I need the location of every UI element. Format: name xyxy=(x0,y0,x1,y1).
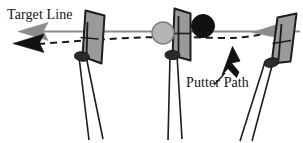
putter-left-face-line xyxy=(87,22,88,57)
putting-stroke-diagram: Target Line Putter Path xyxy=(0,0,303,143)
diagram-canvas: Target Line Putter Path xyxy=(0,0,303,143)
putter-center-hosel xyxy=(165,50,180,60)
putter-path-label: Putter Path xyxy=(186,75,249,90)
golf-ball-black xyxy=(192,15,215,38)
golf-ball-gray xyxy=(152,22,174,44)
target-line-label: Target Line xyxy=(7,7,73,22)
